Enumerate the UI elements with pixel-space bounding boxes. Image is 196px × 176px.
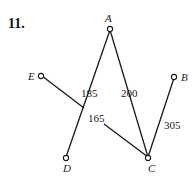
node-b <box>171 74 176 79</box>
edge-weight-a-c: 200 <box>121 87 138 99</box>
edge-weight-b-c: 305 <box>164 119 181 131</box>
edge-weight-e-c: 165 <box>88 112 105 124</box>
node-label-d: D <box>62 162 71 174</box>
node-a <box>107 26 112 31</box>
node-e <box>38 73 43 78</box>
problem-number: 11. <box>8 16 25 31</box>
edge-b-c <box>148 78 174 157</box>
node-d <box>63 155 68 160</box>
graph-diagram: 11. 185 200 165 305 A B C D E <box>0 0 196 176</box>
node-c <box>145 155 150 160</box>
node-label-c: C <box>148 162 156 174</box>
node-label-e: E <box>27 70 35 82</box>
edge-e-c-lower <box>104 124 148 157</box>
node-label-b: B <box>181 71 188 83</box>
edge-e-c-upper <box>42 76 84 108</box>
edge-weight-a-d: 185 <box>81 87 98 99</box>
node-label-a: A <box>104 12 112 24</box>
